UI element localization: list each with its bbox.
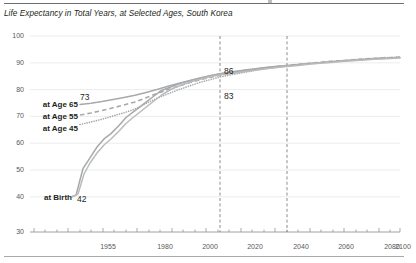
y-tick-100: 100 xyxy=(2,32,24,39)
x-tick-2040: 2040 xyxy=(281,243,321,250)
x-tick-2020: 2020 xyxy=(235,243,275,250)
y-tick-40: 40 xyxy=(2,193,24,200)
annotation-at-age-65-value: 73 xyxy=(80,92,89,102)
x-axis-line xyxy=(30,228,400,232)
series-line-at-birth-main xyxy=(72,58,400,197)
x-tick-1955: 1955 xyxy=(88,243,128,250)
series-label-at-age-55: at Age 55 xyxy=(26,112,78,121)
series-label-at-age-45: at Age 45 xyxy=(26,124,78,133)
x-tick-2100: 2100 xyxy=(383,243,416,250)
y-tick-80: 80 xyxy=(2,86,24,93)
x-tick-2000: 2000 xyxy=(190,243,230,250)
series-line-at-age-65 xyxy=(80,58,400,105)
series-label-at-birth: at Birth xyxy=(26,193,72,202)
x-tick-2060: 2060 xyxy=(326,243,366,250)
annotation-at-birth-value: 42 xyxy=(77,194,86,204)
y-tick-50: 50 xyxy=(2,166,24,173)
annotation-upper-2020-value: 86 xyxy=(224,66,233,76)
series-line-at-age-45 xyxy=(80,57,400,125)
y-tick-90: 90 xyxy=(2,59,24,66)
series-label-at-age-65: at Age 65 xyxy=(26,100,78,109)
x-tick-1980: 1980 xyxy=(145,243,185,250)
series-line-at-age-55 xyxy=(80,57,400,115)
bottom-divider-rule xyxy=(4,256,404,257)
y-tick-70: 70 xyxy=(2,112,24,119)
y-tick-60: 60 xyxy=(2,139,24,146)
annotation-lower-2020-value: 83 xyxy=(224,91,233,101)
y-tick-30: 30 xyxy=(2,228,24,235)
